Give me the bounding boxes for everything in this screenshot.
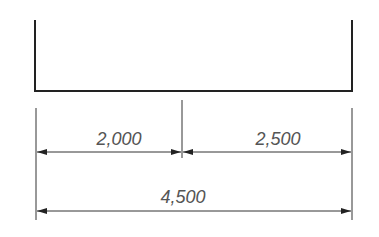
dimension-drawing: 2,000 2,500 4,500 bbox=[0, 0, 379, 237]
dimension-label-total: 4,500 bbox=[160, 187, 205, 207]
object-outline bbox=[35, 20, 352, 91]
dimension-label-left: 2,000 bbox=[95, 129, 141, 149]
dimension-label-right: 2,500 bbox=[254, 129, 300, 149]
